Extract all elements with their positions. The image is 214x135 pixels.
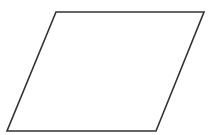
parallelogram-shape: [7, 12, 204, 131]
diagram-canvas: [0, 0, 214, 135]
